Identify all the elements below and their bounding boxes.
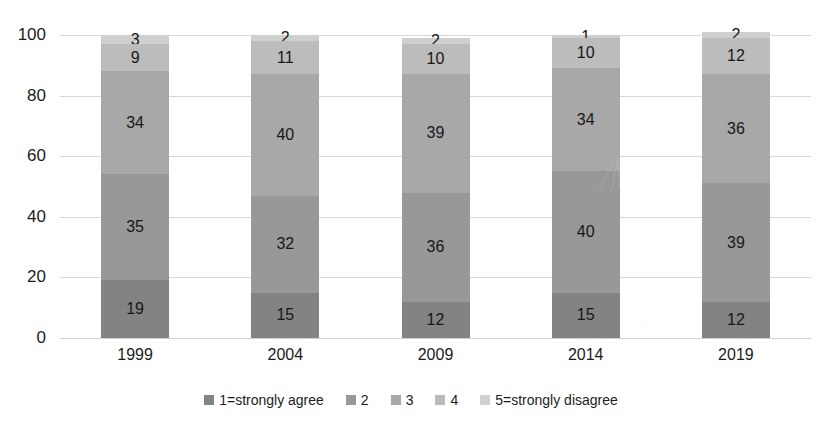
bar-value-label: 12 bbox=[727, 48, 745, 64]
bar-group-2004[interactable]: 211403215 bbox=[251, 35, 319, 338]
legend-swatch-icon bbox=[480, 395, 490, 405]
bar-segment[interactable]: 36 bbox=[402, 193, 470, 302]
bar-segment[interactable]: 15 bbox=[251, 293, 319, 338]
x-axis-tick-2019: 2019 bbox=[691, 346, 781, 364]
y-axis-tick-60: 60 bbox=[0, 147, 46, 164]
bar-value-label: 40 bbox=[577, 224, 595, 240]
bar-group-2014[interactable]: 110344015 bbox=[552, 35, 620, 338]
chart-title bbox=[0, 0, 822, 3]
legend-label: 5=strongly disagree bbox=[495, 392, 618, 408]
bar-value-label: 39 bbox=[727, 235, 745, 251]
bar-segment[interactable]: 11 bbox=[251, 41, 319, 74]
bar-value-label: 11 bbox=[277, 50, 294, 66]
bar-segment[interactable]: 12 bbox=[402, 302, 470, 338]
chart-legend: 1=strongly agree2345=strongly disagree bbox=[0, 392, 822, 408]
bar-segment[interactable]: 12 bbox=[702, 38, 770, 74]
legend-label: 1=strongly agree bbox=[219, 392, 324, 408]
bar-value-label: 39 bbox=[427, 125, 445, 141]
bar-segment[interactable]: 40 bbox=[251, 74, 319, 195]
bar-segment[interactable]: 35 bbox=[101, 174, 169, 280]
y-axis-tick-20: 20 bbox=[0, 268, 46, 285]
bar-group-1999[interactable]: 39343519 bbox=[101, 35, 169, 338]
bar-segment[interactable]: 40 bbox=[552, 171, 620, 292]
legend-swatch-icon bbox=[435, 395, 445, 405]
bar-value-label: 12 bbox=[427, 312, 445, 328]
bar-value-label: 32 bbox=[276, 236, 294, 252]
x-axis-tick-2004: 2004 bbox=[240, 346, 330, 364]
legend-swatch-icon bbox=[391, 395, 401, 405]
gridline-0 bbox=[60, 338, 811, 339]
gridline-100 bbox=[60, 35, 811, 36]
bar-value-label: 15 bbox=[276, 307, 294, 323]
bar-group-2009[interactable]: 210393612 bbox=[402, 38, 470, 338]
y-axis-tick-0: 0 bbox=[0, 329, 46, 346]
bar-segment[interactable]: 10 bbox=[402, 44, 470, 74]
legend-item-3[interactable]: 3 bbox=[391, 392, 414, 408]
bar-segment[interactable]: 32 bbox=[251, 196, 319, 293]
legend-swatch-icon bbox=[346, 395, 356, 405]
bar-value-label: 34 bbox=[577, 112, 595, 128]
legend-label: 3 bbox=[406, 392, 414, 408]
bar-segment[interactable]: 3 bbox=[101, 35, 169, 44]
y-axis: 100806040200 bbox=[0, 0, 52, 423]
legend-label: 4 bbox=[450, 392, 458, 408]
y-axis-tick-80: 80 bbox=[0, 87, 46, 104]
bar-segment[interactable]: 15 bbox=[552, 293, 620, 338]
bar-segment[interactable]: 9 bbox=[101, 44, 169, 71]
bar-value-label: 34 bbox=[126, 115, 144, 131]
y-axis-tick-40: 40 bbox=[0, 208, 46, 225]
bar-value-label: 9 bbox=[131, 50, 140, 66]
plot-area: 3934351921140321521039361211034401521236… bbox=[60, 35, 811, 338]
legend-item-2[interactable]: 2 bbox=[346, 392, 369, 408]
bar-value-label: 36 bbox=[727, 121, 745, 137]
bar-value-label: 40 bbox=[276, 127, 294, 143]
bar-segment[interactable]: 34 bbox=[101, 71, 169, 174]
x-axis-tick-2009: 2009 bbox=[391, 346, 481, 364]
legend-label: 2 bbox=[361, 392, 369, 408]
bar-segment[interactable]: 39 bbox=[702, 183, 770, 301]
x-axis-tick-1999: 1999 bbox=[90, 346, 180, 364]
legend-item-5[interactable]: 5=strongly disagree bbox=[480, 392, 618, 408]
legend-item-1[interactable]: 1=strongly agree bbox=[204, 392, 324, 408]
chart-container: 100806040200 393435192114032152103936121… bbox=[0, 0, 822, 423]
bar-value-label: 10 bbox=[577, 45, 595, 61]
bar-segment[interactable]: 12 bbox=[702, 302, 770, 338]
bar-group-2019[interactable]: 212363912 bbox=[702, 32, 770, 338]
x-axis-tick-2014: 2014 bbox=[541, 346, 631, 364]
bar-value-label: 19 bbox=[126, 301, 144, 317]
bar-segment[interactable]: 39 bbox=[402, 74, 470, 192]
y-axis-tick-100: 100 bbox=[0, 26, 46, 43]
bar-segment[interactable]: 34 bbox=[552, 68, 620, 171]
x-axis: 19992004200920142019 bbox=[60, 346, 811, 372]
bar-value-label: 10 bbox=[427, 51, 445, 67]
bar-value-label: 35 bbox=[126, 219, 144, 235]
bar-value-label: 15 bbox=[577, 307, 595, 323]
bar-value-label: 36 bbox=[427, 239, 445, 255]
bar-segment[interactable]: 10 bbox=[552, 38, 620, 68]
legend-item-4[interactable]: 4 bbox=[435, 392, 458, 408]
bar-segment[interactable]: 19 bbox=[101, 280, 169, 338]
bar-value-label: 12 bbox=[727, 312, 745, 328]
bar-segment[interactable]: 36 bbox=[702, 74, 770, 183]
legend-swatch-icon bbox=[204, 395, 214, 405]
